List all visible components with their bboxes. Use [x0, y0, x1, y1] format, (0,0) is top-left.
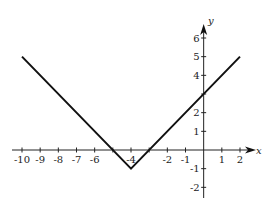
- y-axis: [200, 24, 207, 198]
- y-tick-label: 4: [193, 70, 199, 81]
- x-tick-label: -7: [72, 154, 82, 165]
- x-axis-label: x: [256, 145, 262, 156]
- x-tick-label: -10: [14, 154, 30, 165]
- x-tick-label: -1: [181, 154, 191, 165]
- y-ticks: -2-112456: [190, 33, 206, 193]
- x-tick-label: -9: [35, 154, 45, 165]
- x-axis: [12, 147, 256, 154]
- y-tick-label: -1: [190, 163, 200, 174]
- y-tick-label: 2: [193, 107, 199, 118]
- y-tick-label: 1: [193, 126, 199, 137]
- x-tick-label: -4: [126, 154, 136, 165]
- graph: -10-9-8-7-6-4-2-112 -2-112456 x y: [0, 0, 275, 209]
- x-tick-label: 1: [219, 154, 225, 165]
- y-tick-label: 6: [193, 33, 199, 44]
- y-axis-label: y: [207, 15, 214, 26]
- x-tick-label: 2: [237, 154, 243, 165]
- x-tick-label: -2: [162, 154, 172, 165]
- x-tick-label: -8: [53, 154, 63, 165]
- y-tick-label: 5: [193, 51, 199, 62]
- x-tick-label: -6: [90, 154, 100, 165]
- y-tick-label: -2: [190, 182, 200, 193]
